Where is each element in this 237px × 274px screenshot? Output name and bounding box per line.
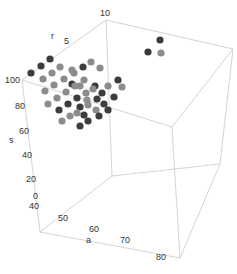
data-point <box>27 69 34 76</box>
data-point <box>79 63 86 70</box>
s-tick: 100 <box>5 75 20 85</box>
data-point <box>80 111 87 118</box>
data-point <box>64 100 71 107</box>
data-point <box>110 93 117 100</box>
data-point <box>73 109 80 116</box>
data-point <box>53 94 60 101</box>
r-tick: 5 <box>64 36 69 46</box>
data-point <box>93 95 100 102</box>
data-point <box>104 106 111 113</box>
s-tick: 40 <box>22 150 32 160</box>
a-axis-label: a <box>86 235 91 245</box>
data-point <box>114 76 121 83</box>
data-point <box>76 82 83 89</box>
s-tick: 80 <box>15 101 25 111</box>
data-point <box>144 48 151 55</box>
data-point <box>95 112 102 119</box>
data-point <box>41 87 48 94</box>
a-tick: 60 <box>89 224 99 234</box>
data-point <box>104 82 111 89</box>
a-tick: 80 <box>156 252 166 262</box>
r-axis-ticks: 10 5 r <box>51 8 110 46</box>
data-point <box>87 58 94 65</box>
data-point <box>39 75 46 82</box>
data-point <box>100 100 107 107</box>
r-axis-label: r <box>51 31 54 41</box>
s-tick: 60 <box>19 126 29 136</box>
data-point <box>62 88 69 95</box>
s-axis-label: s <box>9 135 14 145</box>
a-tick: 40 <box>29 201 39 211</box>
data-point <box>80 76 87 83</box>
data-point <box>44 100 51 107</box>
s-tick: 0 <box>33 191 38 201</box>
r-tick: 10 <box>100 8 110 18</box>
data-point <box>156 36 163 43</box>
data-point <box>96 64 103 71</box>
data-point <box>89 85 96 92</box>
a-axis-ticks: 40 50 60 70 80 a <box>29 201 166 262</box>
data-point <box>56 63 63 70</box>
data-point <box>58 117 65 124</box>
data-point <box>82 89 89 96</box>
data-points <box>27 36 164 129</box>
s-tick: 20 <box>26 174 36 184</box>
data-point <box>37 62 44 69</box>
data-point <box>60 75 67 82</box>
data-point <box>84 101 91 108</box>
a-tick: 50 <box>58 213 68 223</box>
data-point <box>73 94 80 101</box>
bounding-box <box>22 20 233 258</box>
s-axis-ticks: 100 80 60 40 20 0 s <box>5 75 38 201</box>
data-point <box>48 69 55 76</box>
data-point <box>66 112 73 119</box>
data-point <box>98 89 105 96</box>
data-point <box>50 81 57 88</box>
data-point <box>84 117 91 124</box>
scatter-3d-plot: 100 80 60 40 20 0 s 40 50 60 70 80 a 10 … <box>0 0 237 274</box>
data-point <box>157 49 164 56</box>
data-point <box>76 122 83 129</box>
data-point <box>70 69 77 76</box>
data-point <box>46 55 53 62</box>
data-point <box>55 106 62 113</box>
data-point <box>118 83 125 90</box>
a-tick: 70 <box>120 235 130 245</box>
